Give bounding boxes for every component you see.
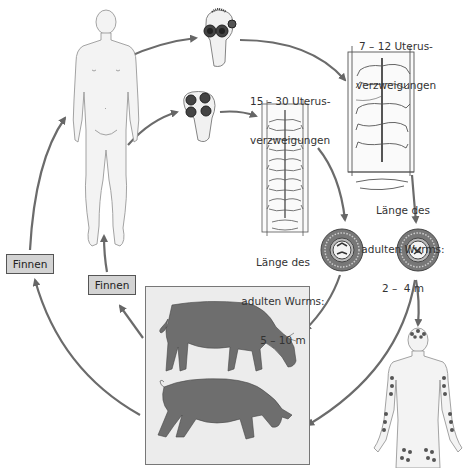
caption-line: 15 – 30 Uterus- bbox=[250, 95, 330, 108]
human-host-figure bbox=[73, 10, 139, 246]
taenia-life-cycle-diagram: 7 – 12 Uterus- verzweigungen 15 – 30 Ute… bbox=[0, 0, 468, 468]
arrow-finnen-left-to-human bbox=[30, 118, 65, 250]
arrow-pig-to-finnen-left bbox=[35, 280, 140, 415]
scolex-armed bbox=[204, 9, 236, 67]
length-line: Länge des bbox=[240, 256, 326, 269]
uterus-branch-caption-saginata: 15 – 30 Uterus- verzweigungen bbox=[250, 69, 330, 160]
pig-figure bbox=[158, 379, 292, 439]
arrow-human-to-scolex-top bbox=[126, 38, 196, 58]
caption-line: verzweigungen bbox=[356, 79, 436, 92]
caption-line: verzweigungen bbox=[250, 134, 330, 147]
caption-line: 7 – 12 Uterus- bbox=[356, 40, 436, 53]
length-value: 2 – 4 m bbox=[360, 282, 446, 295]
egg-left bbox=[321, 229, 363, 271]
finnen-label-left: Finnen bbox=[6, 254, 54, 274]
length-value: 5 – 10 m bbox=[240, 334, 326, 347]
finnen-label-right: Finnen bbox=[88, 275, 136, 295]
length-line: adulten Wurms: bbox=[240, 295, 326, 308]
adult-length-saginata: Länge des adulten Wurms: 5 – 10 m bbox=[240, 230, 326, 360]
length-line: adulten Wurms: bbox=[360, 243, 446, 256]
uterus-branch-caption-solium: 7 – 12 Uterus- verzweigungen bbox=[356, 14, 436, 105]
scolex-unarmed bbox=[184, 92, 215, 142]
arrow-cow-to-finnen-right bbox=[120, 306, 143, 338]
arrow-finnen-right-to-human bbox=[104, 236, 107, 272]
length-line: Länge des bbox=[360, 204, 446, 217]
human-cysticercosis-figure bbox=[374, 328, 462, 468]
adult-length-solium: Länge des adulten Wurms: 2 – 4 m bbox=[360, 178, 446, 308]
